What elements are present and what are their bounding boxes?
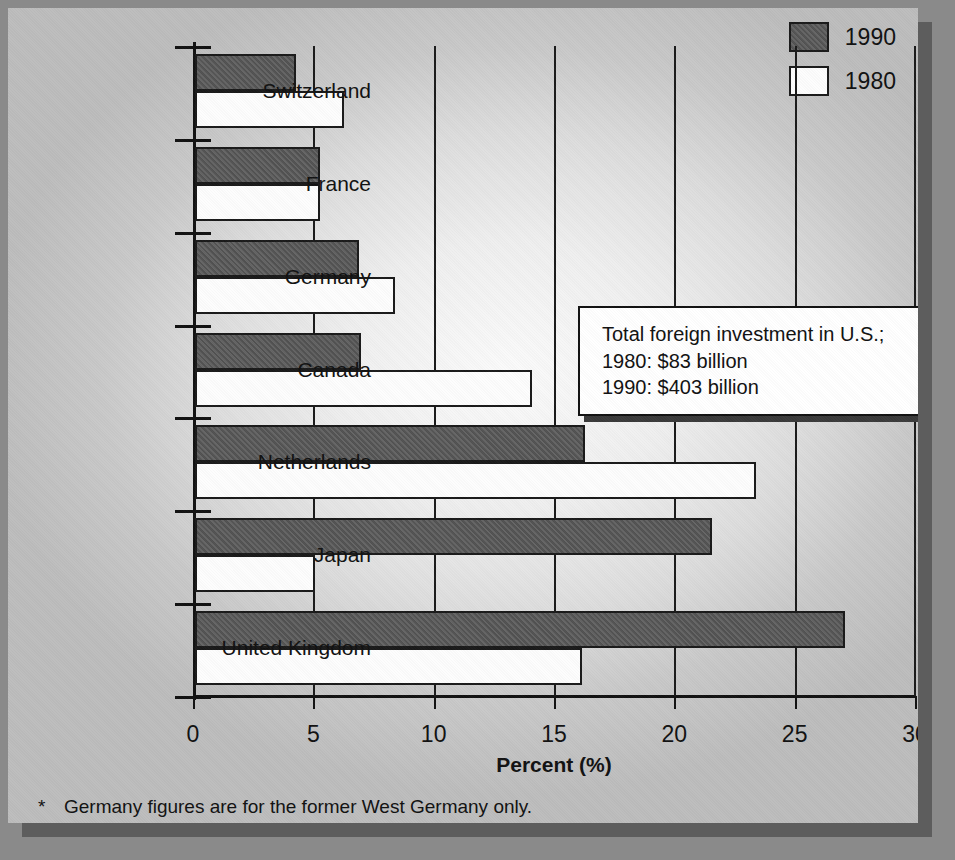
footnote-marker: * xyxy=(38,796,64,818)
category-label-france: France xyxy=(306,172,371,196)
x-tick-label: 0 xyxy=(187,721,200,748)
x-tick xyxy=(795,696,797,709)
x-tick xyxy=(554,696,556,709)
annotation-line-2: 1980: $83 billion xyxy=(602,348,918,375)
category-label-germany: Germany xyxy=(285,265,371,289)
x-tick xyxy=(434,696,436,709)
footnote: *Germany figures are for the former West… xyxy=(38,796,898,818)
x-tick-label: 5 xyxy=(307,721,320,748)
annotation-line-3: 1990: $403 billion xyxy=(602,374,918,401)
chart-page: 1990 1980 051015202530 SwitzerlandFrance… xyxy=(0,0,955,860)
footnote-text: Germany figures are for the former West … xyxy=(64,796,532,817)
x-axis-title: Percent (%) xyxy=(193,753,915,777)
x-tick-label: 10 xyxy=(421,721,447,748)
category-label-netherlands: Netherlands xyxy=(258,450,371,474)
category-labels: SwitzerlandFranceGermanyCanadaNetherland… xyxy=(185,46,371,696)
chart-figure: 1990 1980 051015202530 SwitzerlandFrance… xyxy=(8,8,918,823)
x-tick xyxy=(915,696,917,709)
x-tick-label: 15 xyxy=(541,721,567,748)
category-label-canada: Canada xyxy=(297,358,371,382)
annotation-line-1: Total foreign investment in U.S.; xyxy=(602,321,918,348)
category-label-switzerland: Switzerland xyxy=(262,79,371,103)
y-tick xyxy=(175,696,211,699)
x-tick-label: 25 xyxy=(782,721,808,748)
annotation-box: Total foreign investment in U.S.; 1980: … xyxy=(578,306,918,416)
gridline xyxy=(554,46,556,696)
x-tick-label: 20 xyxy=(662,721,688,748)
annotation-panel: Total foreign investment in U.S.; 1980: … xyxy=(578,306,918,416)
category-label-japan: Japan xyxy=(314,543,371,567)
x-tick xyxy=(313,696,315,709)
category-label-united-kingdom: United Kingdom xyxy=(222,636,371,660)
x-tick xyxy=(674,696,676,709)
x-tick-label: 30 xyxy=(902,721,918,748)
